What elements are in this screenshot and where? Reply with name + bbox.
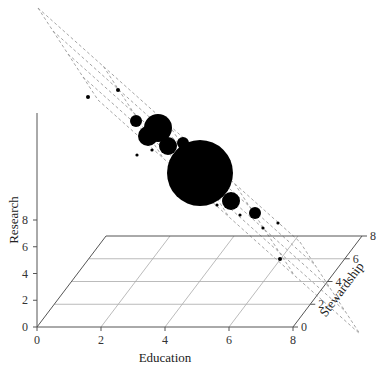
- bubble: [278, 257, 282, 261]
- education-tick-label: 4: [162, 333, 168, 347]
- research-axis: [33, 113, 37, 327]
- x-axis-title: Education: [139, 350, 192, 365]
- bubble: [249, 207, 261, 219]
- bubble: [135, 153, 138, 156]
- bubble: [276, 221, 279, 224]
- bubble: [261, 226, 264, 229]
- bubble: [130, 115, 142, 127]
- education-tick-label: 2: [98, 333, 104, 347]
- research-tick-label: 6: [22, 240, 28, 254]
- research-ticks: 02468: [22, 213, 28, 334]
- bubbles: [86, 88, 282, 261]
- research-tick-label: 4: [22, 267, 28, 281]
- stewardship-tick-label: 8: [370, 229, 376, 243]
- bubble: [150, 148, 153, 151]
- bubble: [222, 192, 240, 210]
- y-axis-title: Research: [6, 196, 21, 244]
- education-tick-label: 6: [226, 333, 232, 347]
- bubble: [138, 126, 158, 146]
- research-tick-label: 2: [22, 293, 28, 307]
- research-tick-label: 8: [22, 213, 28, 227]
- bubble: [215, 203, 218, 206]
- education-tick-label: 8: [290, 333, 296, 347]
- z-axis-title: Stewardship: [316, 259, 367, 319]
- stewardship-tick-label: 0: [301, 320, 307, 334]
- education-tick-label: 0: [34, 333, 40, 347]
- bubble: [167, 140, 233, 206]
- bubble: [86, 95, 90, 99]
- bubble: [238, 213, 241, 216]
- bubble: [116, 88, 120, 92]
- research-tick-label: 0: [22, 320, 28, 334]
- bubble-chart-3d: 02468 02468 02468 Education Research Ste…: [0, 0, 383, 370]
- education-ticks: 02468: [34, 333, 296, 347]
- floor-grid: [37, 236, 367, 331]
